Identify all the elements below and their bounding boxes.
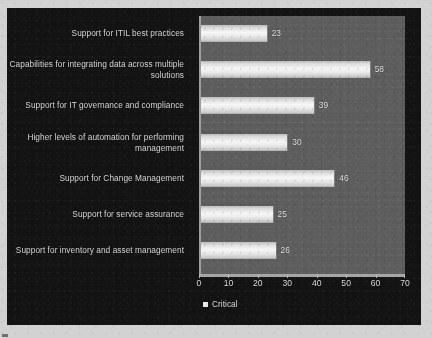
bar-value-label: 25	[278, 208, 287, 220]
bar-row: 58	[199, 61, 405, 78]
bar-critical	[199, 206, 274, 223]
bar-row: 26	[199, 242, 405, 259]
category-label: Support for IT governance and compliance	[8, 100, 184, 111]
bar-value-label: 46	[339, 172, 348, 184]
x-axis-tick-label: 10	[218, 278, 238, 289]
bar-critical	[199, 25, 268, 42]
bar-row: 30	[199, 134, 405, 151]
bar-value-label: 39	[319, 99, 328, 111]
bar-row: 39	[199, 97, 405, 114]
category-label: Support for inventory and asset manageme…	[8, 245, 184, 256]
bar-value-label: 58	[375, 63, 384, 75]
category-label: Higher levels of automation for performi…	[8, 132, 184, 153]
bar-row: 25	[199, 206, 405, 223]
x-axis-tick-label: 20	[248, 278, 268, 289]
bar-critical	[199, 97, 315, 114]
chart-panel: Support for ITIL best practices Capabili…	[7, 8, 421, 325]
x-axis-line	[199, 274, 405, 277]
bar-value-label: 26	[281, 244, 290, 256]
category-label: Support for service assurance	[8, 209, 184, 220]
bar-value-label: 30	[292, 136, 301, 148]
category-label: Support for Change Management	[8, 173, 184, 184]
legend-swatch-critical	[203, 302, 208, 307]
category-axis-labels: Support for ITIL best practices Capabili…	[7, 17, 192, 273]
legend-label-critical: Critical	[212, 299, 238, 309]
y-axis-line	[199, 16, 201, 277]
x-axis-tick-label: 0	[189, 278, 209, 289]
x-axis-tick-label: 30	[277, 278, 297, 289]
x-axis-tick-label: 70	[395, 278, 415, 289]
chart-legend: Critical	[203, 299, 238, 309]
bar-row: 46	[199, 170, 405, 187]
bar-critical	[199, 170, 335, 187]
x-axis-tick-label: 40	[307, 278, 327, 289]
scan-artifact	[2, 334, 8, 337]
bar-row: 23	[199, 25, 405, 42]
bar-critical	[199, 134, 288, 151]
bar-critical	[199, 242, 277, 259]
category-label: Capabilities for integrating data across…	[8, 59, 184, 80]
bar-value-label: 23	[272, 27, 281, 39]
x-axis-tick-labels: 010203040506070	[199, 278, 421, 292]
bar-critical	[199, 61, 371, 78]
x-axis-tick-label: 50	[336, 278, 356, 289]
scanned-page: Support for ITIL best practices Capabili…	[0, 0, 432, 338]
x-axis-tick-label: 60	[366, 278, 386, 289]
plot-area: 23 58 39 30 46 25	[199, 16, 405, 274]
category-label: Support for ITIL best practices	[8, 28, 184, 39]
